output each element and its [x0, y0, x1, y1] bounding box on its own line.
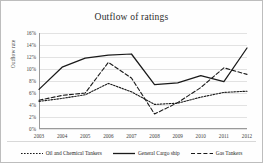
x-tick-label: 2005: [80, 133, 90, 139]
x-tick-label: 2004: [57, 133, 67, 139]
legend-item[interactable]: Oil and Chemical Tankers: [21, 150, 102, 156]
y-tick-label: 4%: [29, 102, 36, 108]
y-tick-label: 16%: [26, 30, 36, 36]
x-tick-label: 2003: [34, 133, 44, 139]
y-tick-label: 14%: [26, 42, 36, 48]
chart-figure: Outflow of ratings Outflow rate 0%2%4%6%…: [0, 0, 263, 163]
series-lines: [39, 33, 247, 129]
legend-label: Gas Tankers: [216, 150, 243, 156]
x-tick-label: 2006: [103, 133, 113, 139]
chart-legend: Oil and Chemical TankersGeneral Cargo sh…: [1, 150, 262, 156]
legend-item[interactable]: Gas Tankers: [191, 150, 243, 156]
legend-label: Oil and Chemical Tankers: [46, 150, 102, 156]
y-tick-label: 0%: [29, 126, 36, 132]
y-tick-label: 12%: [26, 54, 36, 60]
x-tick-label: 2010: [196, 133, 206, 139]
legend-swatch: [191, 151, 213, 156]
y-axis-label: Outflow rate: [10, 26, 16, 82]
x-tick-label: 2011: [219, 133, 229, 139]
plot-area: 0%2%4%6%8%10%12%14%16% 20032004200520062…: [39, 33, 247, 129]
x-tick-label: 2012: [242, 133, 252, 139]
x-tick-label: 2009: [172, 133, 182, 139]
series-line: [39, 48, 247, 89]
y-tick-label: 8%: [29, 78, 36, 84]
chart-title: Outflow of ratings: [1, 12, 262, 22]
gridline: [39, 129, 247, 130]
legend-label: General Cargo ship: [138, 150, 180, 156]
y-tick-label: 2%: [29, 114, 36, 120]
legend-item[interactable]: General Cargo ship: [113, 150, 180, 156]
legend-divider: [7, 141, 256, 142]
x-tick-label: 2008: [149, 133, 159, 139]
legend-swatch: [113, 151, 135, 156]
y-tick-label: 10%: [26, 66, 36, 72]
x-tick-label: 2007: [126, 133, 136, 139]
series-line: [39, 83, 247, 104]
y-tick-label: 6%: [29, 90, 36, 96]
legend-swatch: [21, 151, 43, 156]
